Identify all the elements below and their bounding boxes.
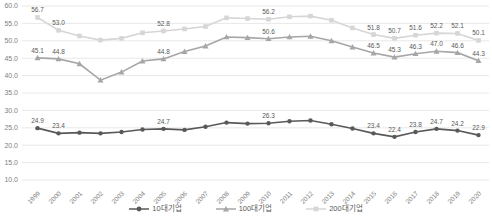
legend-item-top-200: 200대기업 (306, 205, 363, 213)
legend-item-top-100: 100대기업 (216, 205, 273, 213)
data-label: 50.6 (262, 28, 275, 35)
data-label: 52.1 (451, 22, 464, 29)
data-point-marker (434, 31, 439, 36)
y-axis-labels: 60.055.050.045.040.035.030.025.020.015.0… (4, 2, 18, 183)
data-label: 46.5 (367, 42, 380, 49)
data-label: 51.6 (409, 24, 422, 31)
y-tick-label: 50.0 (4, 37, 18, 44)
data-point-marker (266, 121, 270, 125)
legend-label: 10대기업 (152, 205, 181, 213)
data-point-marker (119, 130, 123, 134)
legend-label: 200대기업 (329, 205, 363, 213)
data-label: 24.9 (31, 117, 44, 124)
data-label: 26.3 (262, 112, 275, 119)
data-point-marker (350, 26, 355, 31)
data-point-marker (329, 122, 333, 126)
y-tick-label: 10.0 (4, 176, 18, 183)
data-point-marker (392, 36, 397, 41)
legend-label: 100대기업 (239, 205, 273, 213)
series-top-10: 24.923.424.726.323.422.423.824.724.222.9 (31, 112, 485, 139)
data-label: 56.2 (262, 8, 275, 15)
data-point-marker (203, 24, 208, 29)
data-label: 24.7 (430, 118, 443, 125)
data-point-marker (308, 14, 313, 19)
data-point-marker (119, 36, 124, 41)
gridlines (22, 6, 489, 180)
data-point-marker (287, 119, 291, 123)
data-label: 52.8 (157, 20, 170, 27)
data-point-marker (455, 128, 459, 132)
data-point-marker (77, 130, 81, 134)
data-point-marker (224, 120, 228, 124)
triangle-marker-icon (216, 205, 236, 213)
data-point-marker (392, 135, 396, 139)
legend: 10대기업100대기업200대기업 (0, 202, 492, 215)
data-point-marker (350, 126, 354, 130)
data-point-marker (266, 17, 271, 22)
y-tick-label: 30.0 (4, 107, 18, 114)
data-point-marker (371, 32, 376, 37)
data-point-marker (203, 125, 207, 129)
square-marker-icon (306, 205, 326, 213)
data-point-marker (476, 38, 481, 43)
data-label: 50.7 (388, 27, 401, 34)
data-point-marker (245, 121, 249, 125)
data-point-marker (329, 18, 334, 23)
data-label: 46.6 (451, 42, 464, 49)
data-point-marker (77, 34, 82, 39)
data-label: 24.7 (157, 118, 170, 125)
data-label: 53.0 (52, 19, 65, 26)
data-label: 22.4 (388, 126, 401, 133)
circle-marker-icon (129, 205, 149, 213)
data-point-marker (455, 31, 460, 36)
data-label: 45.1 (31, 47, 44, 54)
chart: 60.055.050.045.040.035.030.025.020.015.0… (0, 0, 492, 216)
data-label: 23.8 (409, 121, 422, 128)
data-point-marker (413, 130, 417, 134)
data-point-marker (413, 33, 418, 38)
data-point-marker (98, 131, 102, 135)
data-label: 44.8 (157, 48, 170, 55)
data-point-marker (434, 127, 438, 131)
data-point-marker (161, 127, 165, 131)
data-point-marker (56, 28, 61, 33)
legend-item-top-10: 10대기업 (129, 205, 181, 213)
data-point-marker (161, 29, 166, 34)
series-top-200: 56.753.052.856.251.850.751.652.252.150.1 (31, 6, 485, 42)
data-point-marker (140, 30, 145, 35)
data-point-marker (98, 38, 103, 43)
line-chart-canvas: 60.055.050.045.040.035.030.025.020.015.0… (0, 0, 492, 216)
data-label: 46.3 (409, 43, 422, 50)
data-point-marker (56, 131, 60, 135)
data-label: 45.3 (388, 46, 401, 53)
data-point-marker (35, 15, 40, 20)
y-tick-label: 40.0 (4, 72, 18, 79)
y-tick-label: 45.0 (4, 55, 18, 62)
data-point-marker (308, 118, 312, 122)
y-tick-label: 60.0 (4, 2, 18, 9)
data-point-marker (35, 126, 39, 130)
data-point-marker (182, 27, 187, 32)
data-point-marker (182, 128, 186, 132)
data-label: 56.7 (31, 6, 44, 13)
data-point-marker (224, 16, 229, 21)
data-label: 51.8 (367, 24, 380, 31)
y-tick-label: 55.0 (4, 20, 18, 27)
data-point-marker (476, 133, 480, 137)
y-tick-label: 25.0 (4, 124, 18, 131)
y-tick-label: 35.0 (4, 89, 18, 96)
data-label: 52.2 (430, 22, 443, 29)
data-point-marker (140, 127, 144, 131)
data-label: 44.8 (52, 48, 65, 55)
data-label: 23.4 (52, 122, 65, 129)
y-tick-label: 20.0 (4, 142, 18, 149)
data-point-marker (245, 16, 250, 21)
data-point-marker (287, 14, 292, 19)
data-label: 50.1 (472, 29, 485, 36)
data-label: 44.3 (472, 50, 485, 57)
data-label: 47.0 (430, 40, 443, 47)
data-label: 23.4 (367, 122, 380, 129)
data-point-marker (371, 131, 375, 135)
y-tick-label: 15.0 (4, 159, 18, 166)
data-label: 24.2 (451, 120, 464, 127)
